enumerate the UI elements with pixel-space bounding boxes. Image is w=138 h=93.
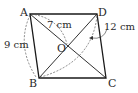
center-label-o: O bbox=[57, 42, 66, 55]
measurement-ab: 9 cm bbox=[4, 39, 29, 50]
arrowhead-icon bbox=[89, 36, 93, 40]
parallelogram-diagram: A D B C O 9 cm 7 cm 12 cm bbox=[0, 0, 138, 93]
vertex-label-b: B bbox=[29, 77, 37, 90]
measurement-bd: 12 cm bbox=[104, 21, 136, 32]
measurement-ao: 7 cm bbox=[47, 19, 72, 30]
vertex-label-c: C bbox=[108, 77, 116, 90]
vertex-label-d: D bbox=[98, 6, 107, 19]
vertex-label-a: A bbox=[19, 6, 29, 19]
